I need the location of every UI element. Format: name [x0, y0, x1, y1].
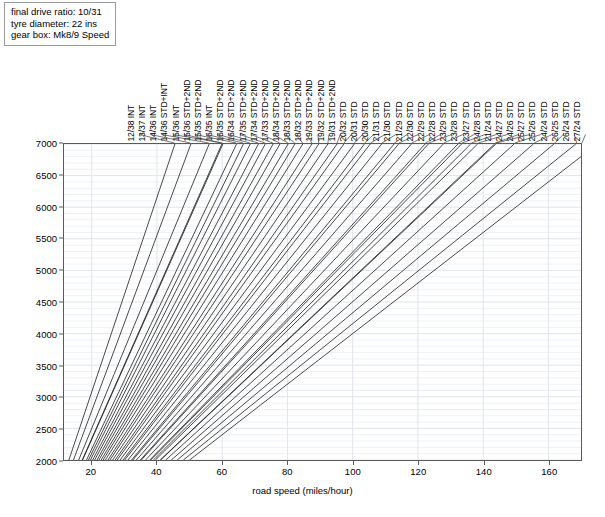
- y-axis-tick-label: 3500: [11, 360, 57, 371]
- x-axis-tick-mark: [222, 461, 223, 465]
- y-axis-tick-label: 7000: [11, 138, 57, 149]
- leader-line-layer: [0, 0, 605, 150]
- y-axis-tick-label: 4500: [11, 297, 57, 308]
- x-axis-tick-mark: [484, 461, 485, 465]
- x-axis-title: road speed (miles/hour): [0, 485, 605, 496]
- x-axis-tick-mark: [418, 461, 419, 465]
- y-axis-tick-label: 6500: [11, 169, 57, 180]
- y-axis-tick-label: 2500: [11, 424, 57, 435]
- chart-plot-area: [63, 143, 582, 461]
- series-line-layer: [64, 144, 581, 460]
- y-axis-tick-label: 6000: [11, 201, 57, 212]
- x-axis-tick-label: 60: [202, 466, 242, 477]
- y-axis-tick-label: 2000: [11, 456, 57, 467]
- x-axis-tick-label: 160: [529, 466, 569, 477]
- x-axis-tick-label: 100: [333, 466, 373, 477]
- x-axis-tick-mark: [353, 461, 354, 465]
- x-axis-tick-label: 140: [464, 466, 504, 477]
- y-axis-tick-label: 5500: [11, 233, 57, 244]
- x-axis-tick-label: 20: [71, 466, 111, 477]
- y-axis-tick-label: 4000: [11, 328, 57, 339]
- y-axis-tick-label: 5000: [11, 265, 57, 276]
- y-axis-tick-label: 3000: [11, 392, 57, 403]
- x-axis-tick-mark: [91, 461, 92, 465]
- x-axis-tick-mark: [549, 461, 550, 465]
- x-axis-tick-mark: [156, 461, 157, 465]
- x-axis-tick-label: 80: [267, 466, 307, 477]
- x-axis-tick-label: 40: [136, 466, 176, 477]
- x-axis-tick-mark: [287, 461, 288, 465]
- x-axis-tick-label: 120: [398, 466, 438, 477]
